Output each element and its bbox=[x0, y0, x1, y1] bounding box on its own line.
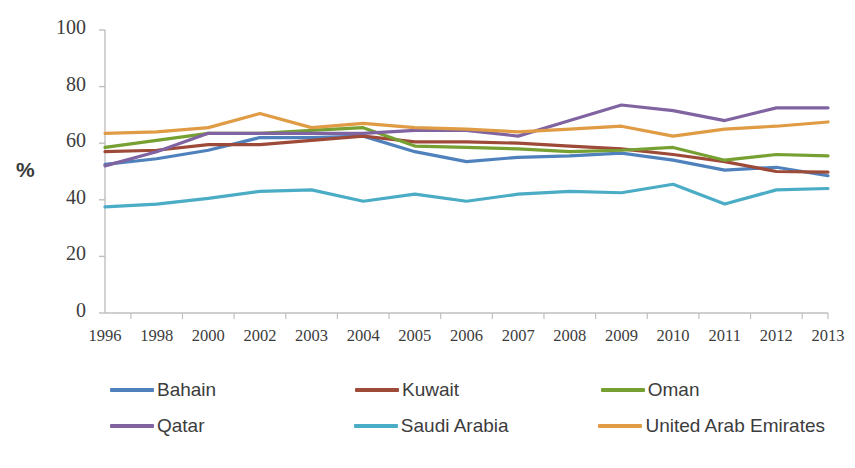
x-axis-tick-2002: 2002 bbox=[232, 326, 288, 346]
legend-label: Saudi Arabia bbox=[401, 415, 509, 437]
x-axis-tick-2011: 2011 bbox=[697, 326, 753, 346]
series-line-qatar bbox=[105, 105, 828, 166]
chart-legend: BahainKuwaitOmanQatarSaudi ArabiaUnited … bbox=[105, 372, 825, 458]
x-axis-tick-2006: 2006 bbox=[439, 326, 495, 346]
x-axis-tick-2003: 2003 bbox=[284, 326, 340, 346]
x-axis-tick-2010: 2010 bbox=[645, 326, 701, 346]
x-axis-tick-2007: 2007 bbox=[490, 326, 546, 346]
legend-label: Oman bbox=[648, 379, 700, 401]
x-axis-tick-2008: 2008 bbox=[542, 326, 598, 346]
legend-item-oman[interactable]: Oman bbox=[589, 372, 825, 408]
legend-label: Kuwait bbox=[402, 379, 459, 401]
legend-line-swatch bbox=[110, 388, 154, 392]
legend-item-saudi-arabia[interactable]: Saudi Arabia bbox=[338, 408, 587, 444]
legend-line-swatch bbox=[355, 388, 399, 392]
series-line-kuwait bbox=[105, 136, 828, 172]
legend-item-bahain[interactable]: Bahain bbox=[105, 372, 339, 408]
legend-line-swatch bbox=[598, 424, 642, 428]
legend-row: BahainKuwaitOman bbox=[105, 372, 825, 408]
line-chart: % 100806040200 1996199820002002200320042… bbox=[0, 0, 855, 468]
axis-lines bbox=[99, 30, 828, 319]
x-axis-tick-2005: 2005 bbox=[387, 326, 443, 346]
x-axis-tick-2013: 2013 bbox=[800, 326, 855, 346]
series-lines bbox=[105, 105, 828, 207]
legend-line-swatch bbox=[601, 388, 645, 392]
x-axis-tick-1996: 1996 bbox=[77, 326, 133, 346]
legend-label: Qatar bbox=[157, 415, 205, 437]
x-axis-tick-2004: 2004 bbox=[335, 326, 391, 346]
legend-label: United Arab Emirates bbox=[645, 415, 825, 437]
x-axis-tick-1998: 1998 bbox=[129, 326, 185, 346]
x-axis-tick-2012: 2012 bbox=[748, 326, 804, 346]
legend-row: QatarSaudi ArabiaUnited Arab Emirates bbox=[105, 408, 825, 444]
legend-line-swatch bbox=[354, 424, 398, 428]
legend-item-united-arab-emirates[interactable]: United Arab Emirates bbox=[586, 408, 825, 444]
x-axis-tick-2009: 2009 bbox=[593, 326, 649, 346]
legend-line-swatch bbox=[110, 424, 154, 428]
series-line-saudi-arabia bbox=[105, 184, 828, 207]
x-axis-tick-2000: 2000 bbox=[180, 326, 236, 346]
legend-item-kuwait[interactable]: Kuwait bbox=[339, 372, 589, 408]
legend-item-qatar[interactable]: Qatar bbox=[105, 408, 338, 444]
legend-label: Bahain bbox=[157, 379, 216, 401]
